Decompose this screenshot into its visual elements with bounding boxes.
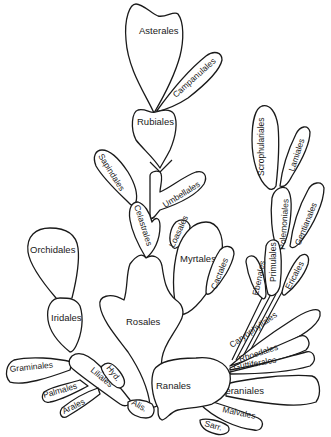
label-orchidales: Orchidales (30, 244, 76, 255)
node-ebenales: Ebenales (246, 256, 267, 299)
node-umbellales: Umbellales (150, 171, 206, 218)
node-primulales: Primulales (265, 240, 282, 296)
label-iridales: Iridales (51, 312, 82, 323)
node-graminales: Graminales (7, 358, 72, 383)
node-orchidales: Orchidales (28, 228, 79, 300)
node-gentianales: Gentianales (290, 183, 324, 248)
label-ranales: Ranales (156, 380, 191, 391)
node-ericales: Ericales (282, 254, 309, 295)
node-geraniales: Geraniales (218, 375, 319, 404)
label-rubiales: Rubiales (137, 116, 174, 127)
angiosperm-order-diagram: Asterales Campanulales Rubiales Sapindal… (0, 0, 331, 437)
label-rosales: Rosales (126, 316, 161, 327)
label-asterales: Asterales (139, 25, 179, 36)
node-iridales: Iridales (48, 298, 82, 352)
node-lamiales: Lamiales (280, 127, 310, 187)
node-scrophulariales: Scrophulariales (252, 106, 279, 190)
label-primulales: Primulales (268, 242, 278, 282)
node-sapindales: Sapindales (94, 150, 136, 205)
label-myrtales: Myrtales (180, 253, 216, 264)
label-scrophulariales: Scrophulariales (256, 117, 266, 176)
node-rubiales: Rubiales (132, 110, 176, 168)
